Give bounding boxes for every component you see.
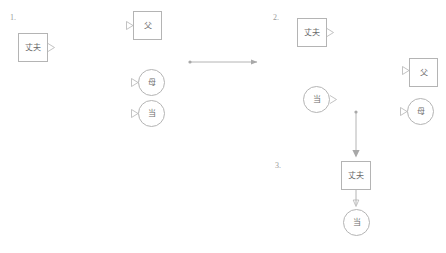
node-husband-2[interactable]: 丈夫 <box>297 18 327 47</box>
node-father-2[interactable]: 父 <box>409 58 438 87</box>
node-label: 当 <box>148 109 156 117</box>
node-label: 母 <box>148 78 156 86</box>
node-label: 丈夫 <box>25 43 41 51</box>
section-number-3: 3. <box>275 162 281 170</box>
node-label: 当 <box>353 218 361 226</box>
node-mother-2[interactable]: 母 <box>407 98 434 125</box>
node-mother-1[interactable]: 母 <box>138 69 165 96</box>
node-dang-1[interactable]: 当 <box>138 100 165 127</box>
section-number-2: 2. <box>273 14 279 22</box>
node-label: 丈夫 <box>304 28 320 36</box>
node-label: 母 <box>417 107 425 115</box>
connector-layer <box>0 0 446 253</box>
node-label: 丈夫 <box>348 171 364 179</box>
node-husband-1[interactable]: 丈夫 <box>18 33 48 62</box>
node-dang-2[interactable]: 当 <box>303 86 330 113</box>
connector-vertical <box>352 112 359 158</box>
port-arrows <box>48 22 409 118</box>
node-father-1[interactable]: 父 <box>133 11 162 40</box>
node-dang-3[interactable]: 当 <box>343 209 370 236</box>
connector-box-to-circle <box>353 190 359 207</box>
node-label: 当 <box>313 95 321 103</box>
section-number-1: 1. <box>10 14 16 22</box>
node-label: 父 <box>420 68 428 76</box>
diagram-canvas: 1. 2. 3. 丈夫 父 母 当 丈夫 当 父 母 丈夫 当 <box>0 0 446 253</box>
node-label: 父 <box>144 21 152 29</box>
node-husband-3[interactable]: 丈夫 <box>341 161 371 190</box>
